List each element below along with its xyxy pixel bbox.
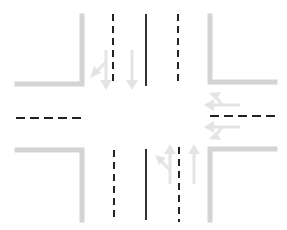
lane-markings [16, 14, 276, 222]
arrow-straight-left-south [155, 144, 176, 184]
arrow-straight-right-north [90, 50, 112, 90]
arrow-straight-north [126, 50, 138, 90]
arrow-straight-south [188, 144, 200, 184]
curb-northwest [17, 16, 82, 84]
intersection-diagram [0, 0, 287, 230]
curb-northeast [210, 16, 275, 82]
curb-southeast [210, 149, 275, 220]
intersection-svg [0, 0, 287, 230]
curb-southwest [17, 150, 82, 220]
arrow-straight-left-east [204, 92, 240, 111]
arrow-straight-right-east [204, 121, 240, 140]
